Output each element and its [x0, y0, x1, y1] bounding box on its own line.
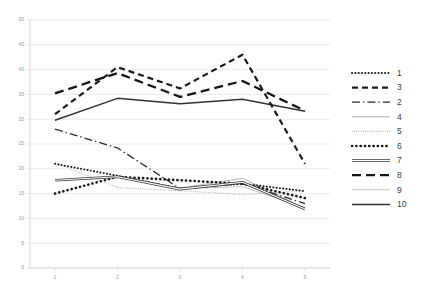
- legend-label-6: 6: [397, 141, 402, 151]
- x-tick-label: 2: [116, 274, 119, 280]
- legend-label-4: 4: [397, 112, 402, 122]
- legend-label-7: 7: [397, 155, 402, 165]
- legend-label-3: 3: [397, 82, 402, 92]
- y-tick-label: 20: [18, 165, 24, 171]
- y-tick-label: 45: [18, 41, 24, 47]
- y-tick-label: 30: [18, 116, 24, 122]
- chart-background: [0, 0, 438, 294]
- y-tick-label: 5: [21, 240, 24, 246]
- legend-label-10: 10: [397, 199, 407, 209]
- legend-label-8: 8: [397, 170, 402, 180]
- y-tick-label: 35: [18, 91, 24, 97]
- y-tick-label: 10: [18, 215, 24, 221]
- legend-label-2: 2: [397, 97, 402, 107]
- x-tick-label: 4: [241, 274, 244, 280]
- y-tick-label: 25: [18, 140, 24, 146]
- y-tick-label: 40: [18, 66, 24, 72]
- legend-label-1: 1: [397, 68, 402, 78]
- legend-label-5: 5: [397, 126, 402, 136]
- x-tick-label: 3: [179, 274, 182, 280]
- line-chart: 05101520253035404550 12345 13245678910: [0, 0, 438, 294]
- y-tick-label: 50: [18, 16, 24, 22]
- legend-label-9: 9: [397, 185, 402, 195]
- y-tick-label: 0: [21, 264, 24, 270]
- chart-screenshot: 05101520253035404550 12345 13245678910: [0, 0, 438, 294]
- x-tick-label: 1: [54, 274, 57, 280]
- x-tick-label: 5: [304, 274, 307, 280]
- y-tick-label: 15: [18, 190, 24, 196]
